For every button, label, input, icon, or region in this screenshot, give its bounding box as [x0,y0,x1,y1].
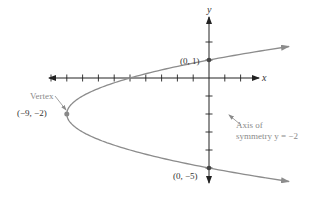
parabola-upper-arrow [266,47,289,51]
graph-canvas: x y (0, 1) (−9, −2) (0, −5) Vertex Axis … [0,0,318,197]
x-axis [49,75,259,82]
y-axis [206,17,213,183]
label-vertex-coords: (−9, −2) [17,108,47,118]
point-y-intercept-top [207,58,212,63]
parabola-lower-arrow [266,178,289,182]
axis-of-symmetry-annotation-line2: symmetry y = −2 [236,131,298,141]
point-y-intercept-bottom [207,166,212,171]
vertex-pointer-arrow [55,96,66,110]
x-axis-label: x [261,72,267,83]
parabola-diagram: x y (0, 1) (−9, −2) (0, −5) Vertex Axis … [0,0,318,197]
y-axis-label: y [206,4,212,15]
vertex-annotation: Vertex [30,91,54,101]
label-y-intercept-bottom: (0, −5) [173,171,198,181]
point-vertex [64,112,69,117]
parabola-curve [67,50,266,178]
axis-of-symmetry-annotation-line1: Axis of [236,120,263,130]
label-y-intercept-top: (0, 1) [180,56,200,66]
